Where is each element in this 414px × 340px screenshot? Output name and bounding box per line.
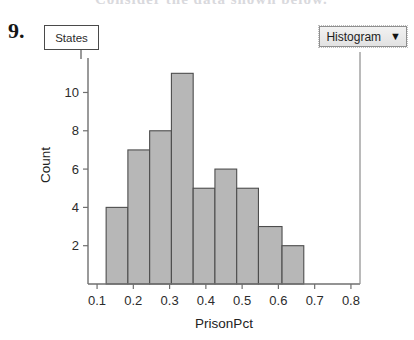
histogram-bar	[215, 169, 237, 284]
y-axis-tick-label: 2	[72, 238, 79, 253]
chart-title-box: States	[44, 25, 99, 50]
x-axis-tick-label: 0.5	[233, 293, 251, 308]
x-axis-title: PrisonPct	[195, 316, 253, 331]
y-axis-tick-label: 4	[72, 200, 79, 215]
bars-group	[106, 73, 304, 284]
histogram-bar	[150, 131, 172, 284]
histogram-bar	[237, 188, 259, 284]
faded-header-text: Consider the data shown below.	[95, 0, 328, 8]
x-axis-tick-label: 0.4	[197, 293, 215, 308]
histogram-bar	[128, 150, 150, 284]
y-axis-title: Count	[38, 147, 53, 183]
x-axis-tick-label: 0.3	[161, 293, 179, 308]
histogram-bar	[106, 207, 128, 284]
histogram-bar	[258, 227, 282, 284]
histogram-bar	[193, 188, 215, 284]
histogram-plot: 2468100.10.20.30.40.50.60.70.8PrisonPctC…	[0, 52, 414, 340]
y-axis-tick-label: 8	[72, 123, 79, 138]
x-axis-tick-label: 0.8	[342, 293, 360, 308]
x-axis-tick-label: 0.2	[124, 293, 142, 308]
chart-title-label: States	[55, 32, 88, 44]
question-number: 9.	[8, 18, 25, 44]
histogram-svg: 2468100.10.20.30.40.50.60.70.8PrisonPctC…	[0, 52, 414, 340]
y-axis-tick-label: 10	[65, 85, 79, 100]
y-axis-tick-label: 6	[72, 162, 79, 177]
chevron-down-icon: ▼	[390, 31, 401, 42]
histogram-bar	[171, 73, 193, 284]
chart-type-dropdown-label: Histogram	[326, 30, 381, 44]
x-axis-tick-label: 0.6	[269, 293, 287, 308]
chart-type-dropdown[interactable]: Histogram ▼	[319, 26, 407, 47]
x-axis-tick-label: 0.7	[306, 293, 324, 308]
histogram-bar	[282, 246, 304, 284]
x-axis-tick-label: 0.1	[88, 293, 106, 308]
faded-header-strip: Consider the data shown below.	[0, 0, 414, 10]
